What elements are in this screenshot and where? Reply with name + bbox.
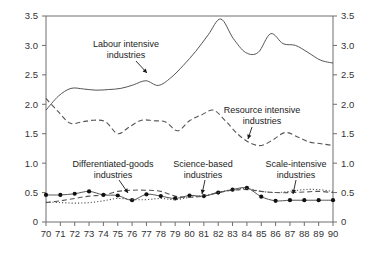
x-tick-label: 72 <box>69 228 80 239</box>
y-tick-label-left: 1.0 <box>25 158 38 169</box>
y-tick-label-left: 2.5 <box>25 69 38 80</box>
x-tick-label: 77 <box>141 228 152 239</box>
y-tick-label-left: 0.5 <box>25 187 38 198</box>
series-marker <box>44 193 48 197</box>
series-marker <box>144 192 148 196</box>
line-chart: 00.51.01.52.02.53.03.5 00.51.01.52.02.53… <box>0 0 379 254</box>
series-marker <box>259 195 263 199</box>
y-tick-label-left: 2.0 <box>25 99 38 110</box>
series-marker <box>245 186 249 190</box>
x-tick-label: 87 <box>285 228 296 239</box>
series-marker <box>274 199 278 203</box>
x-tick-label: 85 <box>256 228 267 239</box>
series-marker <box>331 198 335 202</box>
y-tick-label-right: 0.5 <box>341 187 354 198</box>
y-tick-label-left: 3.5 <box>25 10 38 21</box>
y-tick-label-right: 3.5 <box>341 10 354 21</box>
series-marker <box>130 198 134 202</box>
chart-container: 00.51.01.52.02.53.03.5 00.51.01.52.02.53… <box>0 0 379 254</box>
x-tick-label: 88 <box>299 228 310 239</box>
x-tick-label: 82 <box>213 228 224 239</box>
y-tick-label-left: 1.5 <box>25 128 38 139</box>
x-tick-label: 71 <box>55 228 66 239</box>
series-marker <box>159 194 163 198</box>
y-tick-label-left: 3.0 <box>25 40 38 51</box>
x-tick-label: 76 <box>127 228 138 239</box>
y-tick-label-right: 1.5 <box>341 128 354 139</box>
x-tick-label: 70 <box>41 228 52 239</box>
series-marker <box>302 198 306 202</box>
x-tick-label: 78 <box>156 228 167 239</box>
y-tick-label-right: 0 <box>341 216 346 227</box>
chart-background <box>0 0 379 254</box>
x-tick-label: 84 <box>242 228 253 239</box>
x-tick-label: 83 <box>227 228 238 239</box>
x-tick-label: 79 <box>170 228 181 239</box>
y-tick-label-right: 1.0 <box>341 158 354 169</box>
y-tick-label-right: 3.0 <box>341 40 354 51</box>
x-tick-label: 89 <box>313 228 324 239</box>
series-marker <box>288 198 292 202</box>
x-tick-label: 75 <box>112 228 123 239</box>
series-marker <box>87 189 91 193</box>
y-tick-label-right: 2.5 <box>341 69 354 80</box>
series-marker <box>116 193 120 197</box>
series-marker <box>317 198 321 202</box>
series-marker <box>73 192 77 196</box>
y-tick-label-left: 0 <box>33 216 38 227</box>
series-marker <box>58 193 62 197</box>
series-marker <box>101 193 105 197</box>
x-tick-label: 86 <box>270 228 281 239</box>
x-tick-label: 90 <box>328 228 339 239</box>
x-tick-label: 73 <box>84 228 95 239</box>
x-tick-label: 74 <box>98 228 109 239</box>
y-tick-label-right: 2.0 <box>341 99 354 110</box>
x-tick-label: 81 <box>199 228 210 239</box>
x-tick-label: 80 <box>184 228 195 239</box>
